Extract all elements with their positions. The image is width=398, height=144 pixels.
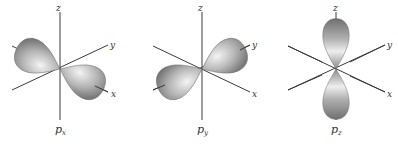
panel-py: z y x py [151,3,258,137]
x-label: x [387,89,392,99]
y-label: y [386,40,393,50]
panel-pz: z y x pz [288,3,393,137]
z-label: z [197,3,203,13]
px-lobe-back [9,33,67,84]
panel-px: z y x px [9,3,116,137]
z-label: z [332,3,338,13]
x-label: x [111,89,116,99]
y-label: y [109,40,116,50]
p-orbitals-diagram: z y x px z y x py z [0,0,398,144]
caption-px: px [55,123,66,137]
pz-lobe-top [323,19,350,69]
caption-pz: pz [331,123,342,137]
x-label: x [252,89,257,99]
py-lobe-front [151,54,209,105]
py-lobe-back [195,33,253,84]
pz-lobe-bottom [323,69,350,119]
px-lobe-front [53,54,111,105]
caption-py: py [197,123,209,137]
z-label: z [55,3,61,13]
y-label: y [251,40,258,50]
